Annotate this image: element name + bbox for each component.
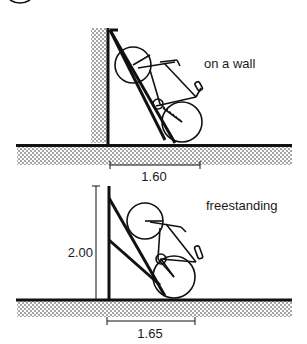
dimension-height-freestanding xyxy=(92,186,100,299)
dimension-width-freestanding xyxy=(107,317,195,325)
panel-label-freestanding: freestanding xyxy=(206,198,278,213)
dimension-label-width-freestanding: 1.65 xyxy=(137,326,162,341)
bicycle-storage-diagram: 1.60 on a wall 2.00 xyxy=(0,0,307,344)
partial-label-circle xyxy=(10,0,30,3)
floor-hatch-freestanding xyxy=(17,301,292,317)
floor-hatch-wall xyxy=(17,147,292,165)
panel-wall: 1.60 on a wall xyxy=(16,28,292,184)
dimension-label-width-wall: 1.60 xyxy=(141,169,166,184)
freestanding-rack xyxy=(109,186,165,299)
panel-freestanding: 2.00 1.65 freesta xyxy=(16,186,292,341)
dimension-label-height: 2.00 xyxy=(68,245,93,260)
wall-hatch xyxy=(91,28,108,143)
wall-rack xyxy=(110,30,175,143)
panel-label-wall: on a wall xyxy=(204,56,255,71)
